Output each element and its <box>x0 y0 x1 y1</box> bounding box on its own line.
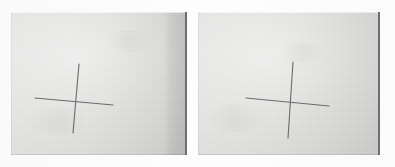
right-cross-horizontal-stroke <box>246 98 329 106</box>
right-photo-left-edge <box>198 12 199 155</box>
screenshot-canvas <box>0 0 395 167</box>
left-photo-left-edge <box>11 12 12 155</box>
right-photo-right-edge-line <box>378 12 380 155</box>
left-photo-top-edge <box>11 12 187 13</box>
left-photo-panel[interactable] <box>11 12 187 155</box>
right-cross-mark-layer <box>198 12 380 155</box>
right-photo-panel[interactable] <box>198 12 380 155</box>
left-photo-right-edge-line <box>185 12 187 155</box>
right-photo-top-edge <box>198 12 380 13</box>
left-cross-vertical-stroke <box>73 64 79 133</box>
left-cross-mark-layer <box>11 12 187 155</box>
left-cross-drawing <box>11 12 187 155</box>
right-cross-vertical-stroke <box>288 62 293 138</box>
left-photo-shadow-band <box>163 12 187 155</box>
right-photo-bottom-edge <box>198 154 380 155</box>
right-cross-drawing <box>198 12 380 155</box>
left-photo-bottom-edge <box>11 154 187 155</box>
left-cross-horizontal-stroke <box>35 98 113 105</box>
